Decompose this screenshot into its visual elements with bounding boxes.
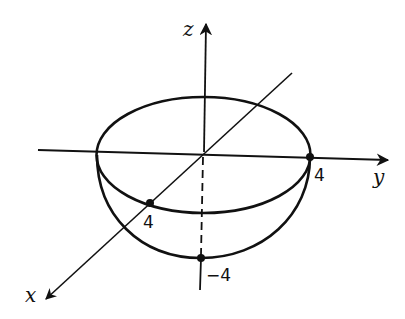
- x-axis: [46, 73, 292, 299]
- x-axis-label: x: [25, 283, 36, 307]
- diagram-canvas: z y x 4 4 −4: [0, 0, 405, 319]
- z-axis-hidden: [201, 157, 203, 255]
- z-axis-lower: [200, 258, 201, 290]
- z-axis-label: z: [182, 17, 194, 41]
- point-z-4: [197, 254, 205, 262]
- z-point-label: −4: [206, 265, 231, 285]
- point-y4: [306, 153, 314, 161]
- y-axis: [38, 150, 388, 160]
- point-x4: [146, 199, 154, 207]
- z-axis: [204, 24, 206, 152]
- y-point-label: 4: [314, 165, 325, 185]
- y-axis-label: y: [372, 165, 385, 189]
- x-point-label: 4: [143, 212, 154, 232]
- hemisphere-diagram: z y x 4 4 −4: [0, 0, 405, 319]
